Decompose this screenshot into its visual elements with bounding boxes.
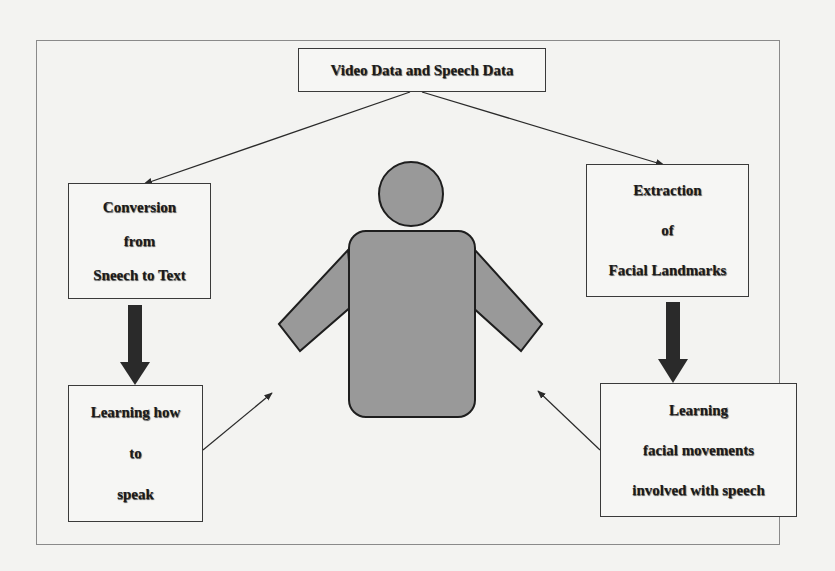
node-video-speech-data: Video Data and Speech Data [298,48,546,92]
node-learning-facial-movements: Learning facial movements involved with … [600,383,797,517]
node-extraction-facial-landmarks: Extraction of Facial Landmarks [586,164,749,297]
node-label-line: from [124,233,155,250]
node-label-line: Learning how [91,404,181,421]
node-label-line: involved with speech [632,482,765,499]
node-label: Video Data and Speech Data [331,62,514,79]
node-label-line: facial movements [643,442,754,459]
node-label-line: speak [117,486,154,503]
node-label-line: of [661,222,674,239]
node-label-line: to [129,445,142,462]
thick-arrow-left [120,305,150,385]
node-learning-how-to-speak: Learning how to speak [68,385,203,522]
node-label-line: Facial Landmarks [609,262,727,279]
node-label-line: Conversion [103,199,176,216]
node-label-line: Learning [669,402,728,419]
arrow-facial-to-person [538,391,600,450]
arrow-source-to-conversion [144,92,410,184]
node-conversion-speech-to-text: Conversion from Sneech to Text [68,183,211,299]
node-label-line: Sneech to Text [93,267,186,284]
node-label-line: Extraction [633,182,701,199]
arrow-speak-to-person [203,393,272,450]
thick-arrow-right [658,302,688,383]
arrow-source-to-extraction [422,92,664,165]
person-icon [279,162,542,417]
